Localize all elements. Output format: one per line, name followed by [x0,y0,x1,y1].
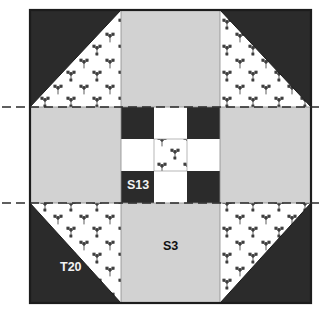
patch-gray-bottom-center [121,203,220,303]
ninepatch-cell-r1c1 [154,139,187,171]
patch-gray-top-center [121,10,220,107]
diagram-canvas: T20 S3 S13 [0,0,325,311]
patch-gray-middle-left [30,107,121,203]
label-s3: S3 [163,239,178,253]
unit-corner-bottom-left [30,203,121,303]
ninepatch-cell-r2c2 [187,171,220,203]
quilt-block-diagram: T20 S3 S13 [0,0,325,311]
ninepatch-cell-r0c1 [154,107,187,139]
ninepatch-cell-r1c2 [187,139,220,171]
label-t20: T20 [60,260,82,274]
ninepatch-cell-r1c0 [121,139,154,171]
unit-corner-bottom-right [220,203,311,303]
label-s13: S13 [127,178,149,192]
patch-gray-middle-right [220,107,311,203]
unit-corner-top-left [30,10,121,107]
ninepatch-cell-r0c2 [187,107,220,139]
unit-corner-top-right [220,10,311,107]
ninepatch-cell-r0c0 [121,107,154,139]
ninepatch-cell-r2c1 [154,171,187,203]
